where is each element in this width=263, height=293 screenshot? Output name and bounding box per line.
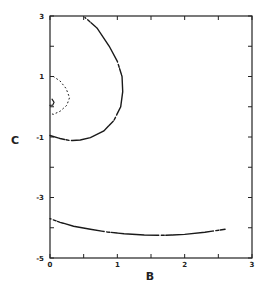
series-small-hook — [50, 99, 54, 105]
x-tick-label: 1 — [115, 261, 120, 269]
y-axis-label: C — [11, 134, 19, 147]
y-tick-label: -5 — [36, 255, 44, 263]
y-tick-label: -1 — [36, 134, 44, 142]
y-tick-label: -3 — [36, 194, 44, 202]
y-tick-label: 1 — [39, 73, 44, 81]
x-tick-label: 0 — [48, 261, 53, 269]
series-small-arc — [50, 77, 70, 115]
chart: 012331-1-3-5 B C — [0, 0, 263, 293]
x-tick-label: 3 — [250, 261, 255, 269]
plot-frame — [50, 16, 252, 258]
y-tick-label: 3 — [39, 13, 44, 21]
data-series — [50, 18, 225, 236]
series-large-arc — [50, 18, 123, 141]
x-tick-label: 2 — [182, 261, 187, 269]
series-lower-curve — [50, 219, 225, 236]
x-axis-label: B — [146, 270, 154, 283]
axis-ticks — [50, 16, 252, 258]
